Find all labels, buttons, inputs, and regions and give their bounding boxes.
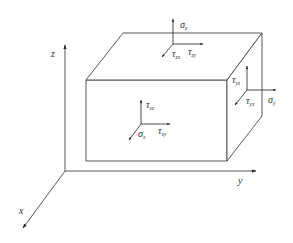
stress-element-diagram: z y x σz τzx τzy τxz σx τxy τ [0,0,293,243]
x-axis [23,171,65,228]
z-axis-label: z [50,48,55,59]
y-axis-label: y [237,175,243,186]
sigma-z-label: σz [180,19,188,31]
sigma-y-label: σy [268,94,276,106]
front-face [86,80,227,161]
x-axis-label: x [18,205,24,216]
